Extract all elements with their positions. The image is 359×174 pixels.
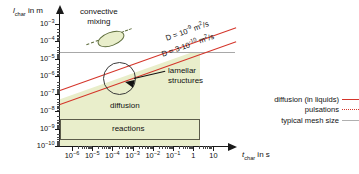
y-tick-label--9: 10−9 (40, 125, 55, 132)
lamellar-line1: lamellar (168, 66, 196, 75)
y-minor-tick (57, 120, 60, 121)
chart-figure: reactions diffusion D = 10-9 m2/s D = 3·… (0, 0, 359, 174)
y-minor-tick (57, 102, 60, 103)
x-axis-arrow-icon (228, 143, 237, 151)
y-axis-title: lchar in m (13, 6, 43, 15)
reactions-label: reactions (112, 124, 144, 133)
y-minor-tick (57, 29, 60, 30)
x-minor-tick (102, 146, 103, 149)
y-axis-subscript: char (15, 11, 26, 17)
y-minor-tick (57, 67, 60, 68)
convective-line2: mixing (87, 17, 110, 26)
y-minor-tick (57, 47, 60, 48)
y-tick--4 (55, 41, 60, 42)
legend-swatch-dotted-red (342, 109, 359, 110)
legend-swatch-solid-gray (342, 120, 359, 121)
legend-swatch-solid-red (342, 99, 359, 100)
y-axis-arrow-icon (56, 5, 64, 14)
x-minor-tick (179, 146, 180, 149)
y-tick-label--10: 10−10 (37, 142, 55, 149)
x-axis-title: tchar in s (242, 150, 270, 159)
x-minor-tick (84, 146, 85, 149)
y-minor-tick (57, 64, 60, 65)
legend-item-1[interactable]: pulsations (243, 105, 359, 116)
y-minor-tick (57, 85, 60, 86)
lamellar-arrow-icon (124, 78, 134, 88)
y-tick--7 (55, 94, 60, 95)
y-minor-tick (57, 137, 60, 138)
x-minor-tick (203, 146, 204, 149)
legend-item-0[interactable]: diffusion (in liquids) (243, 94, 359, 105)
convective-mixing-label: convectivemixing (80, 7, 118, 27)
y-minor-tick (57, 82, 60, 83)
x-tick-label-7: 10 (201, 152, 225, 159)
y-tick-label--6: 10−6 (40, 72, 55, 79)
x-minor-tick (142, 146, 143, 149)
legend-item-2[interactable]: typical mesh size (243, 115, 359, 126)
x-minor-tick (82, 146, 83, 149)
y-minor-tick (57, 99, 60, 100)
dline-lower-unit-tail: /s (207, 32, 216, 42)
x-minor-tick (205, 146, 206, 149)
y-minor-tick (57, 134, 60, 135)
x-minor-tick (125, 146, 126, 149)
y-tick-label--7: 10−7 (40, 90, 55, 97)
chart-legend: diffusion (in liquids)pulsationstypical … (243, 94, 359, 126)
y-tick-label--5: 10−5 (40, 55, 55, 62)
x-minor-tick (159, 146, 160, 149)
convective-line1: convective (80, 7, 118, 16)
lamellar-structures-label: lamellarstructures (168, 66, 203, 86)
x-minor-tick (119, 146, 120, 149)
x-minor-tick (78, 146, 79, 149)
y-tick--10 (55, 146, 60, 147)
y-minor-tick (57, 50, 60, 51)
y-tick--5 (55, 59, 60, 60)
y-tick-label--8: 10−8 (40, 107, 55, 114)
x-minor-tick (145, 146, 146, 149)
x-minor-tick (185, 146, 186, 149)
legend-label-0: diffusion (in liquids) (274, 95, 339, 104)
y-minor-tick (57, 116, 60, 117)
plot-area: reactions diffusion D = 10-9 m2/s D = 3·… (0, 0, 359, 174)
y-tick--9 (55, 129, 60, 130)
convective-dash-right (121, 28, 132, 33)
x-axis-unit: in s (257, 150, 269, 159)
y-axis-unit: in m (28, 6, 43, 15)
x-minor-tick (162, 146, 163, 149)
x-minor-tick (122, 146, 123, 149)
y-tick-label--4: 10−4 (40, 37, 55, 44)
x-minor-tick (199, 146, 200, 149)
y-tick--6 (55, 76, 60, 77)
y-minor-tick (57, 32, 60, 33)
x-minor-tick (165, 146, 166, 149)
x-minor-tick (98, 146, 99, 149)
y-tick--3 (55, 24, 60, 25)
x-minor-tick (139, 146, 140, 149)
x-minor-tick (104, 146, 105, 149)
y-tick-label--3: 10−3 (40, 20, 55, 27)
x-minor-tick (183, 146, 184, 149)
legend-label-2: typical mesh size (281, 116, 339, 125)
y-tick--8 (55, 111, 60, 112)
dline-upper-unit-tail: /s (201, 19, 210, 29)
legend-label-1: pulsations (305, 105, 339, 114)
lamellar-line2: structures (168, 76, 203, 85)
diffusion-label: diffusion (110, 101, 140, 110)
x-axis-subscript: char (244, 155, 255, 161)
